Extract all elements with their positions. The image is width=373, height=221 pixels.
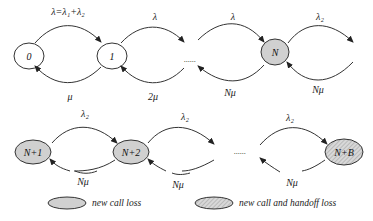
forward-arrow <box>121 27 184 43</box>
legend-label: new call loss <box>92 198 141 208</box>
rate-label: 2μ <box>148 91 158 102</box>
backward-arrow <box>198 65 264 81</box>
state-0: 0 <box>14 43 44 69</box>
backward-arrow <box>35 66 101 83</box>
backward-arrow <box>260 158 280 172</box>
rate-label: μ <box>66 91 72 102</box>
state-label: N+B <box>333 147 354 158</box>
forward-arrow <box>198 24 264 42</box>
gray-ellipse-swatch <box>48 197 86 209</box>
rate-label: λ₂ <box>285 112 294 123</box>
rate-label: λ₂ <box>80 108 89 119</box>
hatched-ellipse-swatch <box>195 197 233 209</box>
backward-arrow <box>50 159 70 171</box>
rate-label: Nμ <box>223 87 236 98</box>
state-label: 1 <box>110 51 115 62</box>
ellipsis: ...... <box>234 147 246 156</box>
backward-arrow <box>287 62 353 80</box>
backward-arrow-tail <box>182 160 214 171</box>
state-label: 0 <box>27 51 32 62</box>
state-N+2: N+2 <box>113 140 149 164</box>
backward-arrow <box>121 66 184 83</box>
state-1: 1 <box>97 43 127 69</box>
forward-arrow <box>288 26 353 43</box>
ellipsis: ...... <box>184 55 196 64</box>
rate-label: λ <box>230 11 236 22</box>
legend-label: new call and handoff loss <box>239 198 336 208</box>
rate-label: λ₂ <box>315 11 324 22</box>
rate-label: λ₂ <box>180 111 189 122</box>
forward-arrow <box>35 26 101 43</box>
state-label: N+1 <box>23 147 42 158</box>
rate-label: Nμ <box>311 84 324 95</box>
backward-arrow-gap <box>172 173 190 175</box>
rate-label: Nμ <box>76 176 89 187</box>
forward-arrow <box>260 128 327 145</box>
rate-label: λ=λ₁+λ₂ <box>50 6 85 17</box>
legend-item-new-call-and-handoff-loss: new call and handoff loss <box>195 197 336 209</box>
legend-item-new-call-loss: new call loss <box>48 197 141 209</box>
forward-arrow <box>148 127 214 144</box>
markov-chain-diagram: 0 1 N ...... λ=λ₁+λ₂ λ λ λ₂ μ 2μ Nμ Nμ N… <box>0 0 373 221</box>
rate-label: λ <box>152 11 158 22</box>
state-N: N <box>261 39 289 65</box>
backward-arrow-tail <box>74 160 115 171</box>
backward-arrow-tail <box>302 160 325 171</box>
state-N+B: N+B <box>325 139 363 165</box>
state-label: N+2 <box>121 147 140 158</box>
rate-label: Nμ <box>171 179 184 190</box>
rate-label: Nμ <box>285 177 298 188</box>
forward-arrow <box>52 127 117 143</box>
state-label: N <box>271 47 280 58</box>
backward-arrow <box>148 159 166 171</box>
state-N+1: N+1 <box>15 140 51 164</box>
